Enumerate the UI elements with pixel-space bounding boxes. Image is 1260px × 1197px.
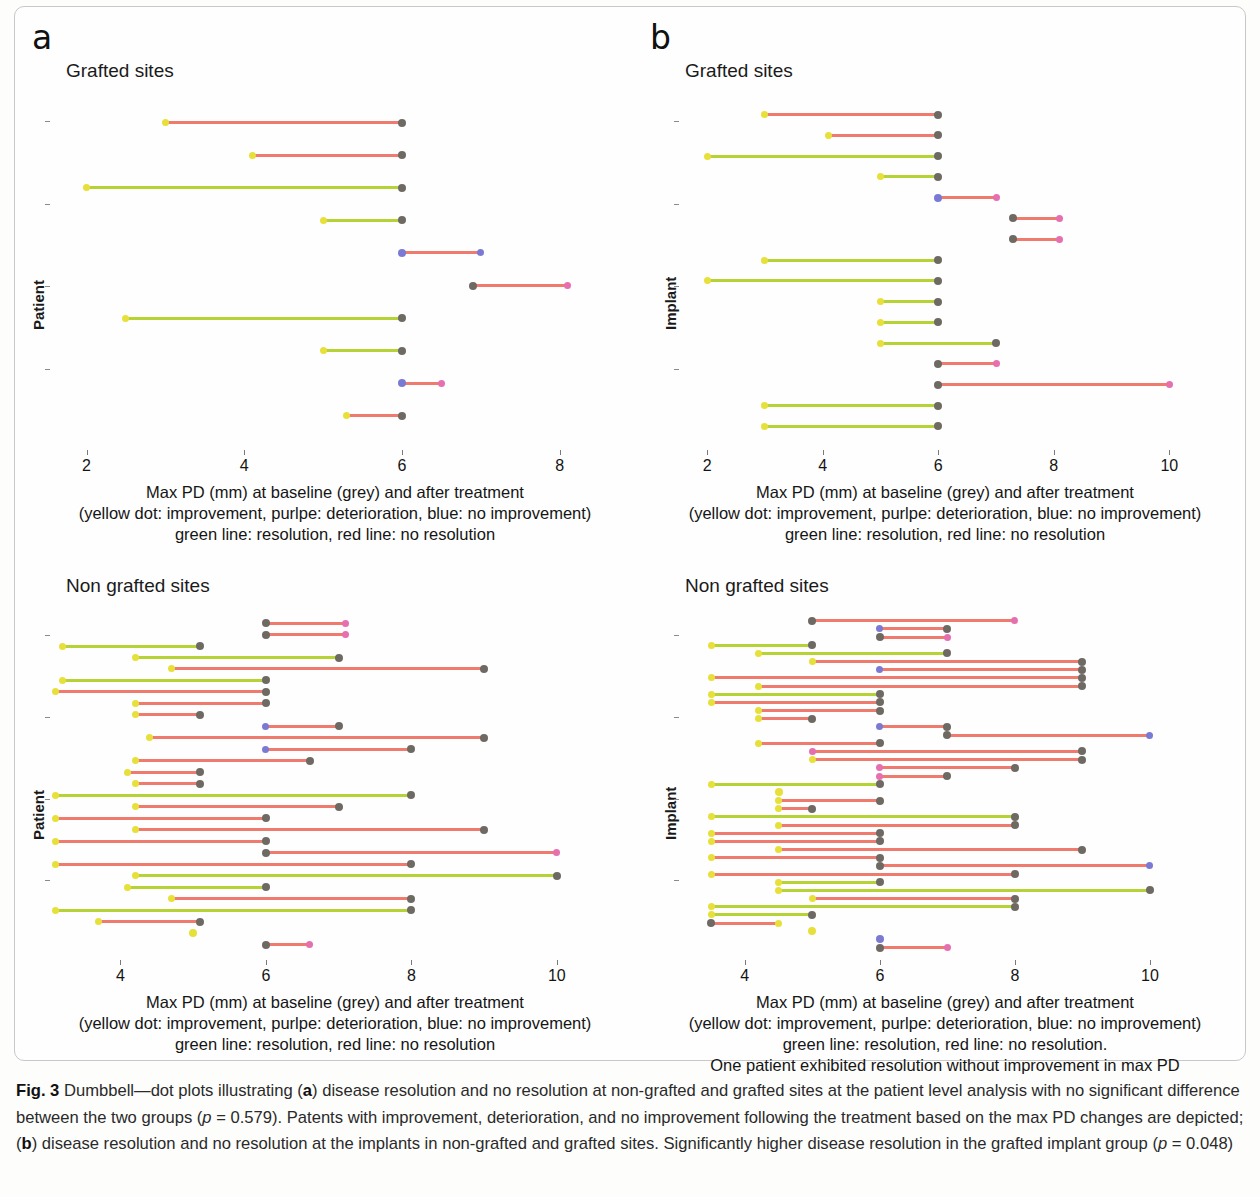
figure-page: a b Grafted sites Patient 2468 Max PD (m… <box>0 0 1260 1197</box>
dumbbell-line <box>779 824 1015 827</box>
after-treatment-dot <box>132 654 139 661</box>
dumbbell-line <box>779 848 1083 851</box>
dumbbell-line <box>150 736 485 739</box>
after-treatment-dot <box>1011 617 1018 624</box>
after-treatment-dot <box>775 887 782 894</box>
dumbbell-line <box>1013 238 1059 241</box>
axis-caption-line: (yellow dot: improvement, purlpe: deteri… <box>55 503 615 524</box>
baseline-dot <box>262 699 270 707</box>
x-axis-tick-mark <box>823 450 824 455</box>
after-treatment-dot <box>132 757 139 764</box>
dumbbell-line <box>135 713 200 716</box>
x-axis-tick-label: 4 <box>116 967 125 985</box>
dumbbell-line <box>880 627 948 630</box>
after-treatment-dot <box>342 620 349 627</box>
x-axis-tick-label: 4 <box>240 457 249 475</box>
after-treatment-dot <box>877 173 884 180</box>
x-axis-tick-mark <box>1054 450 1055 455</box>
dumbbell-line <box>758 652 947 655</box>
baseline-dot <box>1011 895 1019 903</box>
dumbbell-line <box>266 633 346 636</box>
x-axis-tick-mark <box>1150 960 1151 965</box>
baseline-dot <box>934 422 942 430</box>
after-treatment-dot <box>761 402 768 409</box>
after-treatment-dot <box>876 723 883 730</box>
baseline-dot <box>707 919 715 927</box>
chart-b-nongrafted <box>684 615 1204 955</box>
after-treatment-dot <box>438 380 445 387</box>
dumbbell-line <box>402 382 441 385</box>
x-axis-tick-label: 4 <box>740 967 749 985</box>
after-treatment-dot <box>52 861 59 868</box>
chart-a-grafted-xaxis: 2468 <box>55 450 615 480</box>
baseline-dot <box>189 929 197 937</box>
after-treatment-dot <box>755 650 762 657</box>
dumbbell-line <box>135 828 484 831</box>
x-axis-tick-mark <box>560 450 561 455</box>
dumbbell-line <box>765 425 938 428</box>
dumbbell-line <box>880 300 938 303</box>
after-treatment-dot <box>877 298 884 305</box>
after-treatment-dot <box>761 423 768 430</box>
dumbbell-line <box>812 619 1015 622</box>
dumbbell-line <box>779 889 1150 892</box>
baseline-dot <box>934 318 942 326</box>
dumbbell-line <box>165 121 402 124</box>
baseline-dot <box>808 911 816 919</box>
dumbbell-line <box>266 851 557 854</box>
baseline-dot <box>1009 235 1017 243</box>
baseline-dot <box>934 402 942 410</box>
dumbbell-line <box>779 799 880 802</box>
after-treatment-dot <box>162 119 169 126</box>
baseline-dot <box>398 119 406 127</box>
after-treatment-dot <box>708 699 715 706</box>
baseline-dot <box>943 649 951 657</box>
after-treatment-dot <box>755 715 762 722</box>
after-treatment-dot <box>124 884 131 891</box>
baseline-dot <box>943 731 951 739</box>
chart-a-nongrafted-xaxis: 46810 <box>55 960 615 990</box>
baseline-dot <box>934 173 942 181</box>
chart-b-grafted <box>684 100 1204 445</box>
y-axis-tick <box>674 717 679 718</box>
dumbbell-line <box>347 414 402 417</box>
after-treatment-dot <box>320 347 327 354</box>
x-axis-tick-mark <box>411 960 412 965</box>
after-treatment-dot <box>708 911 715 918</box>
axis-caption-line: (yellow dot: improvement, purlpe: deteri… <box>660 503 1230 524</box>
x-axis-tick-label: 6 <box>261 967 270 985</box>
after-treatment-dot <box>944 944 951 951</box>
after-treatment-dot <box>708 854 715 861</box>
after-treatment-dot <box>59 677 66 684</box>
after-treatment-dot <box>704 277 711 284</box>
baseline-dot <box>1078 658 1086 666</box>
baseline-dot <box>398 314 406 322</box>
dumbbell-line <box>126 317 402 320</box>
y-axis-tick <box>674 369 679 370</box>
after-treatment-dot <box>761 257 768 264</box>
baseline-dot <box>1011 821 1019 829</box>
dumbbell-line <box>812 897 1015 900</box>
baseline-dot <box>1011 870 1019 878</box>
x-axis-tick-mark <box>402 450 403 455</box>
baseline-dot <box>876 780 884 788</box>
after-treatment-dot <box>825 132 832 139</box>
dumbbell-line <box>812 660 1082 663</box>
after-treatment-dot <box>775 805 782 812</box>
baseline-dot <box>934 277 942 285</box>
chart-b-nongrafted-xaxis: 46810 <box>684 960 1204 990</box>
chart-b-grafted-xaxis: 246810 <box>684 450 1204 480</box>
dumbbell-line <box>135 805 339 808</box>
after-treatment-dot <box>755 683 762 690</box>
x-axis-tick-label: 2 <box>703 457 712 475</box>
baseline-dot <box>407 791 415 799</box>
dumbbell-line <box>711 856 880 859</box>
axis-caption-line: (yellow dot: improvement, purlpe: deteri… <box>660 1013 1230 1034</box>
baseline-dot <box>943 723 951 731</box>
baseline-dot <box>196 768 204 776</box>
dumbbell-line <box>711 832 880 835</box>
baseline-dot <box>934 381 942 389</box>
x-axis-tick-label: 10 <box>548 967 566 985</box>
dumbbell-line <box>473 284 568 287</box>
dumbbell-line <box>266 748 411 751</box>
